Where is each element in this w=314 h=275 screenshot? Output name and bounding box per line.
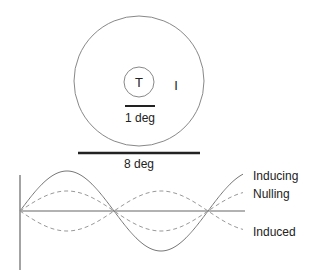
legend-inducing: Inducing (253, 169, 298, 183)
diagram-canvas: T I 1 deg 8 deg Inducing Nulling Induced (0, 0, 314, 275)
inducer-label: I (174, 78, 178, 93)
target-label: T (135, 75, 143, 90)
legend-nulling: Nulling (253, 187, 290, 201)
legend-induced: Induced (253, 225, 296, 239)
scale-label-8deg: 8 deg (124, 157, 154, 171)
scale-label-1deg: 1 deg (125, 111, 155, 125)
